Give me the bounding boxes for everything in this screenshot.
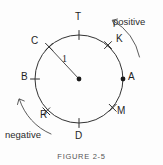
negative-direction-label: negative <box>5 130 41 140</box>
point-label-T: T <box>75 12 81 22</box>
tick-mark-M <box>109 104 116 111</box>
figure-caption: FIGURE 2-5 <box>0 152 163 161</box>
radius-length-label: 1 <box>62 54 67 64</box>
tick-mark-C <box>46 43 53 50</box>
point-label-K: K <box>116 34 123 44</box>
positive-direction-label: positive <box>113 17 145 27</box>
center-point <box>77 77 82 82</box>
point-label-B: B <box>21 72 28 82</box>
figure-unit-circle: T K A M D R B C 1 positive negative FIGU… <box>0 0 163 165</box>
point-label-M: M <box>117 106 125 116</box>
point-label-A: A <box>128 72 135 82</box>
point-A-marker <box>121 77 126 82</box>
point-label-C: C <box>31 36 38 46</box>
tick-mark-K <box>105 42 112 49</box>
point-label-R: R <box>40 110 47 120</box>
point-label-D: D <box>75 131 82 141</box>
